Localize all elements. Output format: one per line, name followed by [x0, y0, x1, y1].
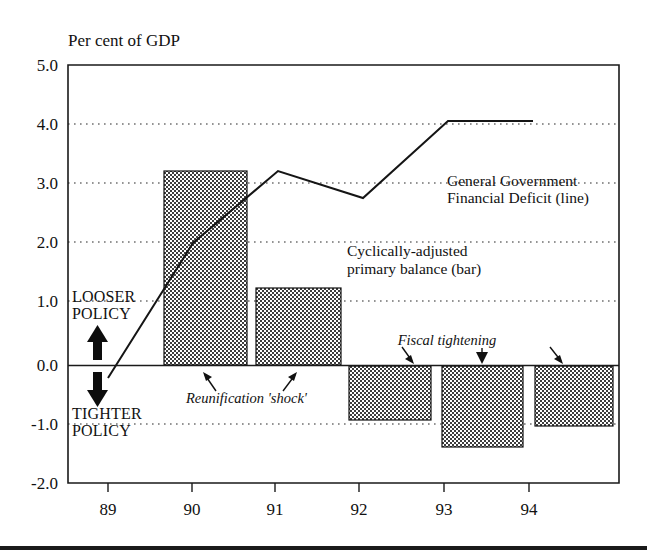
y-tick-label-3-0: 3.0: [37, 174, 58, 193]
x-tick-label-94: 94: [521, 500, 539, 519]
chart-svg: Per cent of GDP 5.0 4.0 3.0 2.0 1.0 0.0 …: [0, 0, 647, 555]
x-tick-label-92: 92: [351, 500, 368, 519]
bar-93: [442, 366, 523, 447]
fiscal-tightening-annotation: Fiscal tightening: [397, 332, 497, 348]
line-series-label-line1: General Government: [447, 172, 578, 189]
x-tick-label-90: 90: [184, 500, 201, 519]
reunification-shock-annotation: Reunification 'shock': [185, 390, 308, 406]
figure-container: Per cent of GDP 5.0 4.0 3.0 2.0 1.0 0.0 …: [0, 0, 647, 555]
y-tick-label-5-0: 5.0: [37, 56, 58, 75]
looser-policy-label-line2: POLICY: [72, 305, 131, 322]
tighter-policy-label-line2: POLICY: [72, 422, 131, 439]
bar-91: [256, 288, 341, 365]
x-tick-label-93: 93: [436, 500, 453, 519]
x-tick-label-91: 91: [267, 500, 284, 519]
tighter-policy-label-line1: TIGHTER: [72, 405, 142, 422]
bar-series-label-line2: primary balance (bar): [347, 260, 481, 278]
y-tick-label-2-0: 2.0: [37, 233, 58, 252]
y-tick-label-0-0: 0.0: [37, 356, 58, 375]
line-series-label-line2: Financial Deficit (line): [447, 189, 589, 207]
y-axis-title: Per cent of GDP: [68, 31, 180, 50]
y-tick-label-4-0: 4.0: [37, 115, 58, 134]
bottom-horizontal-rule: [0, 546, 647, 550]
canvas-background: [0, 0, 647, 555]
bar-92: [349, 366, 431, 420]
looser-policy-label-line1: LOOSER: [72, 288, 136, 305]
x-tick-label-89: 89: [100, 500, 117, 519]
y-tick-label-minus-1-0: -1.0: [31, 415, 58, 434]
y-tick-label-minus-2-0: -2.0: [31, 474, 58, 493]
bar-series-label-line1: Cyclically-adjusted: [347, 242, 468, 259]
y-tick-label-1-0: 1.0: [37, 292, 58, 311]
bar-94: [535, 366, 613, 426]
